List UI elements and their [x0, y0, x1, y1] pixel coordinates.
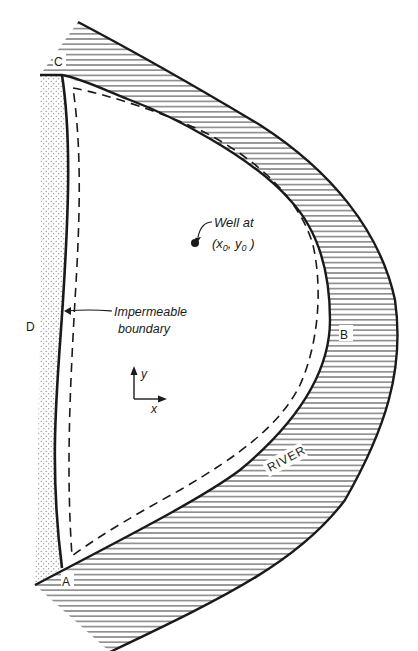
impermeable-zone: [35, 75, 68, 585]
axis-label-y: y: [140, 367, 148, 381]
aquifer-diagram: C D B A RIVER Well at (x0, y0 ) Impermea…: [0, 0, 418, 651]
boundary-label-line2: boundary: [118, 322, 171, 336]
boundary-leader-arrowhead: [64, 307, 71, 315]
axis-label-x: x: [150, 402, 158, 416]
well-label-line2: (x0, y0 ): [212, 236, 255, 253]
well-label-line1: Well at: [214, 215, 255, 230]
boundary-leader-line: [66, 310, 112, 311]
label-corner-b: B: [340, 328, 348, 342]
label-corner-a: A: [62, 575, 70, 589]
label-corner-c: C: [54, 55, 63, 69]
well-leader-line: [198, 222, 212, 237]
label-corner-d: D: [26, 320, 35, 334]
boundary-label-line1: Impermeable: [114, 305, 187, 319]
coordinate-axes: [131, 366, 168, 403]
